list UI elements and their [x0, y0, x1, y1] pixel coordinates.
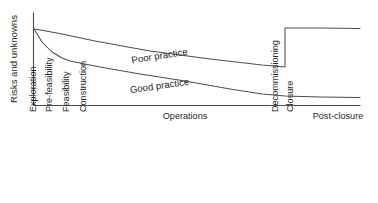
y-axis-title: Risks and unknowns	[8, 15, 19, 103]
stage-label-post-closure: Post-closure	[313, 111, 364, 121]
stage-label-feasibility: Feasibility	[61, 71, 71, 112]
series-labels: Poor practice Good practice	[129, 46, 190, 95]
stage-label-construction: Construction	[78, 61, 88, 112]
stage-label-decommissioning: Decommissioning	[270, 40, 280, 112]
series-label-good-practice: Good practice	[129, 76, 190, 95]
stage-label-closure: Closure	[285, 81, 295, 112]
stage-label-pre-feasibility: Pre-feasibility	[44, 57, 54, 112]
chart-canvas: Risks and unknowns Poor practice Good pr…	[0, 0, 378, 203]
stage-label-exploration: Exploration	[28, 67, 38, 113]
y-axis-title-group: Risks and unknowns	[8, 15, 19, 103]
risk-profile-figure: Risks and unknowns Poor practice Good pr…	[0, 0, 378, 203]
stage-labels: ExplorationPre-feasibilityFeasibilityCon…	[28, 40, 363, 121]
stage-label-operations: Operations	[163, 111, 208, 121]
